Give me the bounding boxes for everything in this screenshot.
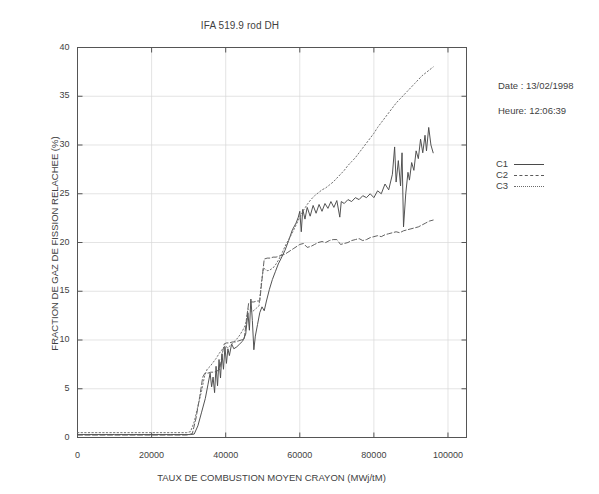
- grid-lines: [78, 48, 467, 438]
- chart-title: IFA 519.9 rod DH: [0, 20, 480, 31]
- legend-item-c2: C2: [496, 169, 544, 180]
- series-line-c2: [78, 220, 434, 435]
- date-annotation: Date : 13/02/1998: [498, 80, 574, 91]
- legend-swatch-c3-dotted: [514, 182, 544, 190]
- legend-swatch-c1-solid: [514, 160, 544, 168]
- x-tick-label: 40000: [198, 450, 254, 460]
- y-tick-label: 5: [40, 383, 70, 393]
- x-tick-label: 20000: [124, 450, 180, 460]
- legend-label-c2: C2: [496, 169, 514, 180]
- y-tick-label: 30: [40, 139, 70, 149]
- legend-label-c3: C3: [496, 180, 514, 191]
- legend-swatch-c2-dashed: [514, 171, 544, 179]
- legend-item-c3: C3: [496, 180, 544, 191]
- x-tick-label: 80000: [346, 450, 402, 460]
- plot-canvas: [0, 0, 599, 494]
- time-annotation: Heure: 12:06:39: [498, 105, 566, 116]
- series-line-c3: [78, 67, 434, 433]
- y-tick-label: 40: [40, 42, 70, 52]
- y-tick-label: 25: [40, 188, 70, 198]
- y-tick-label: 0: [40, 432, 70, 442]
- chart-figure: IFA 519.9 rod DH Date : 13/02/1998 Heure…: [0, 0, 599, 494]
- y-tick-label: 10: [40, 334, 70, 344]
- x-tick-label: 0: [50, 450, 106, 460]
- x-tick-label: 60000: [272, 450, 328, 460]
- chart-legend: C1 C2 C3: [496, 158, 544, 191]
- y-tick-label: 15: [40, 285, 70, 295]
- x-axis-label: TAUX DE COMBUSTION MOYEN CRAYON (MWj/tM): [77, 472, 466, 483]
- legend-item-c1: C1: [496, 158, 544, 169]
- y-tick-label: 35: [40, 90, 70, 100]
- legend-label-c1: C1: [496, 158, 514, 169]
- x-tick-label: 100000: [420, 450, 476, 460]
- y-tick-label: 20: [40, 237, 70, 247]
